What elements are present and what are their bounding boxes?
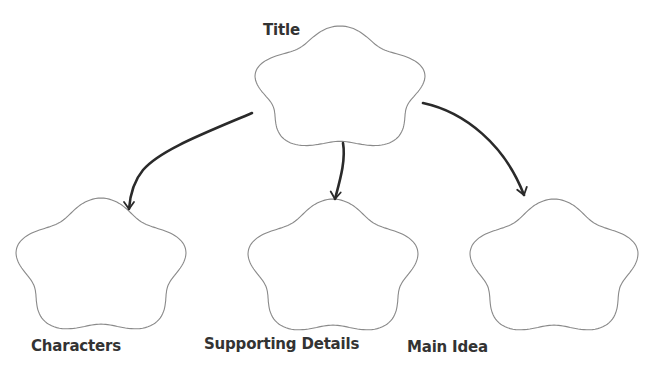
arrow-title-to-characters (129, 113, 252, 209)
graphic-organizer-diagram (0, 0, 656, 367)
title-flower-shape (255, 26, 425, 146)
main-idea-flower-shape (470, 199, 638, 330)
main-idea-label: Main Idea (407, 338, 488, 356)
characters-flower-shape (16, 198, 186, 329)
title-label: Title (263, 21, 300, 39)
supporting-details-label: Supporting Details (204, 335, 359, 353)
supporting-details-flower-shape (248, 199, 418, 330)
arrow-title-to-supporting-details (335, 143, 344, 199)
arrow-title-to-main-idea (423, 103, 524, 195)
characters-label: Characters (31, 337, 121, 355)
